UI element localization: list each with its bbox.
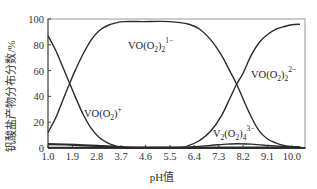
y-axis-title: 钒酸盐产物分布分数/%: [4, 40, 17, 151]
x-tick-label: 8.2: [237, 151, 250, 162]
label-v2-o2-4-3minus: V2(O2)43−: [213, 124, 254, 142]
label-vo-o2-2-2minus: VO(O2)22−: [251, 65, 296, 83]
x-axis-title: pH值: [150, 171, 174, 183]
y-tick-label: 60: [34, 66, 45, 77]
y-tick-label: 20: [34, 117, 45, 128]
plot-frame: [48, 19, 305, 148]
species-curves: [48, 21, 305, 148]
speciation-chart: 020406080100 1.01.92.83.74.65.56.47.38.2…: [0, 0, 317, 189]
curve-vo-o2-2-1-: [48, 21, 305, 147]
curve-vo-o2-2-2-: [48, 24, 300, 148]
y-tick-label: 40: [34, 91, 45, 102]
x-tick-label: 10.0: [283, 151, 301, 162]
x-tick-label: 3.7: [115, 151, 128, 162]
species-labels: VO(O2)21− VO(O2)+ VO(O2)22− V2(O2)43−: [84, 36, 296, 142]
label-vo-o2-plus: VO(O2)+: [84, 105, 122, 122]
y-tick-label: 80: [34, 40, 45, 51]
x-tick-label: 4.6: [139, 151, 152, 162]
x-tick-label: 7.3: [212, 151, 225, 162]
x-tick-label: 1.9: [66, 151, 79, 162]
x-tick-label: 5.5: [163, 151, 176, 162]
x-tick-label: 2.8: [90, 151, 103, 162]
y-tick-label: 100: [28, 14, 44, 25]
x-tick-label: 9.1: [261, 151, 274, 162]
curve-vo-o2-: [48, 36, 305, 148]
x-tick-label: 6.4: [188, 151, 202, 162]
x-tick-label: 1.0: [41, 151, 54, 162]
label-vo-o2-2-1minus: VO(O2)21−: [128, 36, 173, 54]
